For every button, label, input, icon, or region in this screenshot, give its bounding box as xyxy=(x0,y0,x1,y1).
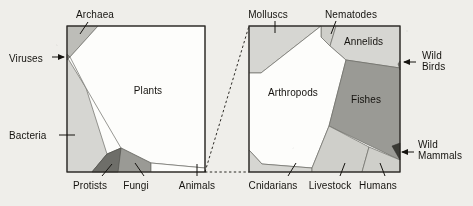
label-nematodes: Nematodes xyxy=(325,9,377,20)
label-animals: Animals xyxy=(179,180,215,191)
label-cnidarians: Cnidarians xyxy=(249,180,298,191)
label-archaea: Archaea xyxy=(76,9,114,20)
label-bacteria: Bacteria xyxy=(9,130,47,141)
label-annelids: Annelids xyxy=(344,36,383,47)
label-protists: Protists xyxy=(73,180,107,191)
zoom-callout-dashed-lines xyxy=(205,26,249,172)
label-molluscs: Molluscs xyxy=(248,9,288,20)
left-panel xyxy=(67,26,205,172)
label-arthropods: Arthropods xyxy=(268,87,318,98)
label-viruses: Viruses xyxy=(9,53,43,64)
label-wild-birds: Wild Birds xyxy=(422,50,445,72)
label-fishes: Fishes xyxy=(351,94,381,105)
dashed-line-upper xyxy=(205,26,249,172)
label-fungi: Fungi xyxy=(123,180,149,191)
label-humans: Humans xyxy=(359,180,397,191)
label-livestock: Livestock xyxy=(309,180,352,191)
biomass-treemap-figure xyxy=(0,0,473,206)
label-wild-mammals: Wild Mammals xyxy=(418,139,462,161)
label-plants: Plants xyxy=(134,85,162,96)
